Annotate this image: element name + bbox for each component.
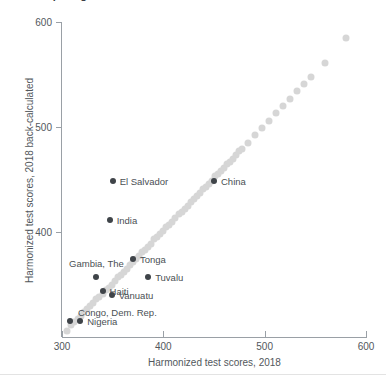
data-point [251,132,258,139]
x-tick-label-300: 300 [54,341,71,352]
point-label-tuvalu: Tuvalu [155,272,183,283]
data-point [239,146,246,153]
y-tick-label-400: 400 [35,227,52,238]
data-point [301,80,308,87]
point-label-nigeria: Nigeria [87,316,117,327]
data-point [279,103,286,110]
y-axis-title: Harmonized test scores, 2018 back-calcul… [24,56,35,306]
plot-area: El SalvadorChinaIndiaTongaTuvaluGambia, … [62,22,366,337]
data-point-nigeria [77,318,83,324]
data-point [265,117,272,124]
x-tick-label-400: 400 [155,341,172,352]
x-tick-label-600: 600 [358,341,375,352]
data-point [287,95,294,102]
data-point [245,139,252,146]
data-point [258,125,265,132]
data-point [294,88,301,95]
data-point-haiti [100,288,106,294]
x-axis-line [62,337,367,338]
data-point-china [211,178,217,184]
point-label-tonga: Tonga [140,254,166,265]
data-point-congo-dem-rep [67,318,73,324]
data-point [342,34,349,41]
y-tick-label-500: 500 [35,122,52,133]
point-label-gambia-the: Gambia, The [69,258,124,269]
data-point [272,110,279,117]
y-tick-label-600: 600 [35,17,52,28]
footer-divider [0,374,386,375]
data-point-tonga [130,256,136,262]
chart-title-clipped: Comparing harmonized test scores [28,0,368,1]
x-tick-label-500: 500 [256,341,273,352]
data-point-vanuatu [109,292,115,298]
scatter-chart: Comparing harmonized test scores 4005006… [0,0,386,383]
point-label-el-salvador: El Salvador [120,175,169,186]
point-label-china: China [221,175,246,186]
data-point-india [107,217,113,223]
data-point [322,59,329,66]
x-axis-title: Harmonized test scores, 2018 [62,357,367,368]
data-point-gambia-the [93,274,99,280]
point-label-vanuatu: Vanuatu [119,290,154,301]
point-label-india: India [117,215,138,226]
data-point [308,73,315,80]
data-point-tuvalu [145,274,151,280]
x-tick-600 [366,331,367,337]
data-point-el-salvador [110,178,116,184]
